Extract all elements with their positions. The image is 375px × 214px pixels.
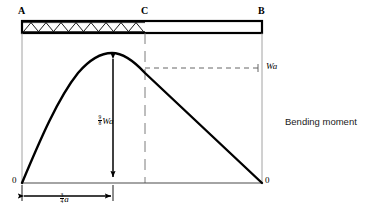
span-denominator: 4 xyxy=(60,199,64,205)
beam-group xyxy=(22,21,262,33)
label-zero-right: 0 xyxy=(265,176,270,185)
max-moment-denominator: 8 xyxy=(98,121,102,127)
diagram-canvas xyxy=(0,0,375,214)
label-ordinate-wa: Wa xyxy=(266,62,277,71)
label-node-b: B xyxy=(258,6,265,16)
label-span-dimension: 3 4 a xyxy=(60,190,69,206)
label-zero-left: 0 xyxy=(12,176,17,185)
max-moment-fraction: 9 8 xyxy=(98,115,102,128)
label-max-moment: 9 8 Wa xyxy=(98,112,113,128)
bending-moment-curve xyxy=(22,53,262,183)
figure-caption: Bending moment xyxy=(285,117,357,127)
bending-moment-figure: A C B 0 0 Wa 9 8 Wa 3 4 a Bending moment xyxy=(0,0,375,214)
span-unit: a xyxy=(64,194,69,204)
max-moment-unit: Wa xyxy=(102,116,113,126)
label-node-c: C xyxy=(141,6,148,16)
span-fraction: 3 4 xyxy=(60,193,64,206)
label-node-a: A xyxy=(18,6,25,16)
